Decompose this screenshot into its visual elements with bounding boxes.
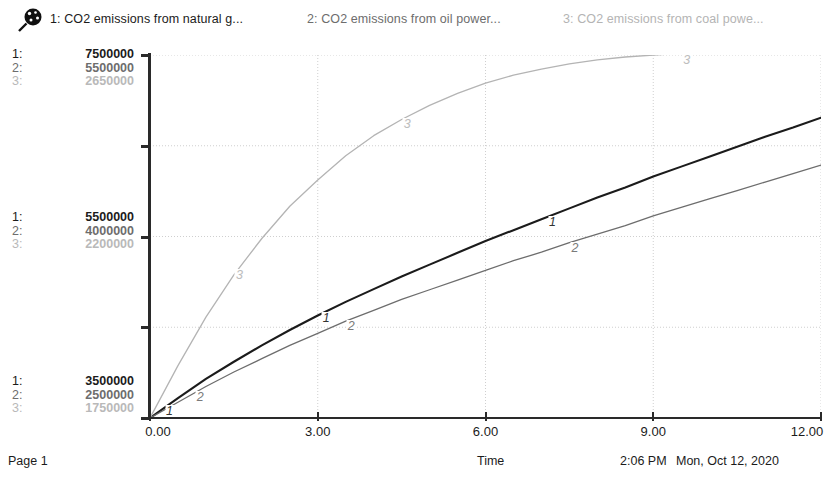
y-axis-tick [141,54,151,57]
timestamp-date: Mon, Oct 12, 2020 [676,454,779,468]
y-scale-index-3: 3: [12,402,22,415]
x-axis-tick [485,412,487,421]
y-scale-index-1: 1: [12,375,22,388]
footer-bar: Page 1 Time 2:06 PM Mon, Oct 12, 2020 [0,450,840,477]
y-scale-index-3: 3: [12,238,22,251]
legend-entry-series-2[interactable]: 2: CO2 emissions from oil power... [307,12,501,26]
y-scale-value-2: 5500000 [85,62,134,75]
y-scale-index-2: 2: [12,389,22,402]
page-label: Page 1 [8,454,48,468]
curve-point-label-series-1: 1 [165,405,174,417]
series-line-2 [150,165,821,418]
y-scale-index-1: 1: [12,48,22,61]
x-axis-tick [149,412,151,421]
plot-area[interactable] [150,55,821,418]
y-scale-index-1: 1: [12,211,22,224]
x-axis-tick-label: 12.00 [791,424,824,439]
y-scale-row-series-1: 1: 7500000 [8,48,134,62]
curve-point-label-series-3: 3 [235,269,244,281]
legend-entry-series-3[interactable]: 3: CO2 emissions from coal powe... [563,12,764,26]
x-axis-tick [820,412,822,421]
x-axis-title: Time [477,454,504,468]
y-scale-value-1: 7500000 [85,48,134,61]
curve-point-label-series-3: 3 [682,54,691,66]
curve-point-label-series-2: 2 [570,242,579,254]
y-scale-value-2: 4000000 [85,225,134,238]
y-axis-tick [141,145,151,148]
x-axis-tick-label: 9.00 [641,424,666,439]
y-scale-index-2: 2: [12,225,22,238]
y-scale-value-1: 5500000 [85,211,134,224]
y-scale-row-series-2: 2: 5500000 [8,62,134,76]
timestamp-time: 2:06 PM [620,454,667,468]
y-scale-value-3: 2200000 [85,238,134,251]
y-axis-tick [141,236,151,239]
curve-point-label-series-2: 2 [347,320,356,332]
x-axis-tick-label: 0.00 [145,424,170,439]
legend-entry-series-1[interactable]: 1: CO2 emissions from natural g... [50,12,243,26]
curve-point-label-series-3: 3 [403,118,412,130]
y-scale-value-1: 3500000 [85,375,134,388]
series-line-1 [150,118,821,418]
y-scale-row-series-1: 1: 5500000 [8,211,134,225]
y-scale-index-3: 3: [12,75,22,88]
y-scale-row-series-2: 2: 4000000 [8,225,134,239]
x-axis-tick [317,412,319,421]
curve-point-label-series-1: 1 [322,312,331,324]
y-scale-value-3: 2650000 [85,75,134,88]
y-scale-row-series-2: 2: 2500000 [8,389,134,403]
y-scale-labels-middle: 1: 5500000 2: 4000000 3: 2200000 [8,211,134,252]
y-axis-tick [141,326,151,329]
y-scale-row-series-3: 3: 2200000 [8,238,134,252]
y-scale-row-series-3: 3: 1750000 [8,402,134,416]
legend-bar: 1: CO2 emissions from natural g... 2: CO… [0,0,840,40]
x-axis-tick-label: 6.00 [473,424,498,439]
curve-point-label-series-2: 2 [196,391,205,403]
magnifier-icon[interactable] [16,7,44,33]
y-scale-row-series-1: 1: 3500000 [8,375,134,389]
chart-canvas [150,55,821,418]
y-scale-value-2: 2500000 [85,389,134,402]
y-scale-row-series-3: 3: 2650000 [8,75,134,89]
y-scale-labels-top: 1: 7500000 2: 5500000 3: 2650000 [8,48,134,89]
y-scale-labels-bottom: 1: 3500000 2: 2500000 3: 1750000 [8,375,134,416]
x-axis-tick-label: 3.00 [305,424,330,439]
x-axis-tick [652,412,654,421]
curve-point-label-series-1: 1 [548,216,557,228]
y-scale-value-3: 1750000 [85,402,134,415]
y-scale-index-2: 2: [12,62,22,75]
